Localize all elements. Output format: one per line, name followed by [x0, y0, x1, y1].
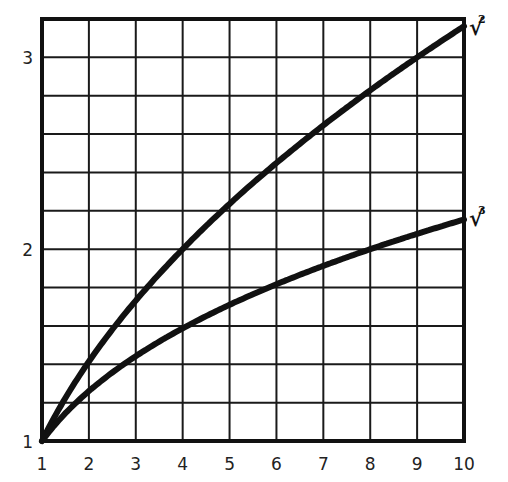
- x-tick-label: 8: [365, 454, 376, 474]
- x-tick-label: 2: [83, 454, 94, 474]
- x-tick-label: 9: [412, 454, 423, 474]
- x-tick-label: 1: [37, 454, 48, 474]
- cube-root-index: 3: [478, 204, 486, 217]
- square-root-index: 2: [478, 13, 486, 26]
- legend-cube-root: √ 3: [469, 204, 486, 231]
- x-tick-label: 6: [271, 454, 282, 474]
- x-tick-label: 7: [318, 454, 329, 474]
- x-tick-label: 5: [224, 454, 235, 474]
- x-tick-label: 10: [453, 454, 475, 474]
- root-curves-chart: 12345678910 123 √ 2 √ 3: [0, 0, 508, 482]
- curves: [42, 26, 464, 441]
- cube-root-curve: [42, 220, 464, 441]
- x-tick-label: 3: [130, 454, 141, 474]
- y-axis-ticks: 123: [22, 48, 33, 452]
- x-axis-ticks: 12345678910: [37, 454, 475, 474]
- y-tick-label: 1: [22, 432, 33, 452]
- y-tick-label: 2: [22, 240, 33, 260]
- y-tick-label: 3: [22, 48, 33, 68]
- x-tick-label: 4: [177, 454, 188, 474]
- legend-square-root: √ 2: [469, 13, 486, 40]
